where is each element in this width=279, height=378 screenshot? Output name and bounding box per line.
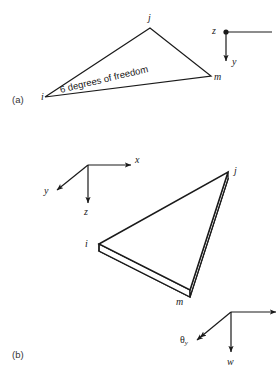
axis-label-a-y: y [232, 57, 236, 67]
dof-indicator-b [197, 312, 276, 352]
node-label-a-j: j [148, 13, 151, 23]
y-axis-arrow-b [57, 165, 88, 190]
node-label-a-i: i [41, 92, 44, 102]
panel-b-axes [57, 165, 131, 203]
z-axis-dot-icon-a [223, 29, 228, 34]
panel-b-tag: (b) [12, 349, 24, 360]
plate-top-face [99, 172, 228, 290]
panel-a-tag: (a) [12, 94, 24, 105]
dof-label-w: w [227, 357, 234, 367]
theta-y-arrow [197, 312, 231, 340]
axis-label-b-z: z [84, 207, 88, 217]
axis-label-b-y: y [44, 186, 48, 196]
dof-label-theta-y: θy [180, 334, 188, 347]
node-label-b-m: m [176, 297, 183, 307]
node-label-b-i: i [85, 239, 88, 249]
node-label-a-m: m [214, 72, 221, 82]
theta-subscript: y [185, 339, 188, 347]
node-label-b-j: j [234, 166, 237, 176]
figure-root: (a) i j m 6 degrees of freedom z y (b) x… [0, 0, 279, 378]
figure-canvas [0, 0, 279, 378]
plate-element-b [99, 172, 228, 297]
panel-a-axes [223, 29, 272, 61]
axis-label-a-z: z [212, 26, 216, 36]
axis-label-b-x: x [135, 155, 139, 165]
